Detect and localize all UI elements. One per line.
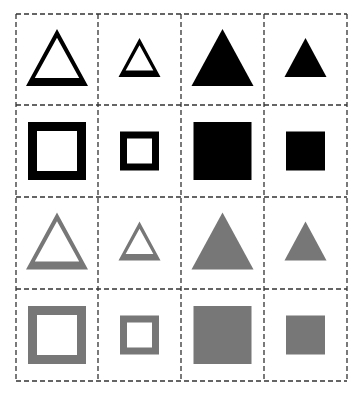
solid-square-icon [194,306,252,364]
shape-grid [0,0,362,395]
outline-triangle-icon [26,29,88,86]
cell-3-2 [194,306,252,364]
outline-square-icon [120,316,159,355]
cell-2-3 [285,222,327,261]
solid-triangle-icon [285,38,327,77]
cell-2-0 [26,213,88,270]
solid-square-icon [194,122,252,180]
cell-1-0 [28,122,86,180]
cell-3-0 [28,306,86,364]
cell-1-2 [194,122,252,180]
cell-1-3 [286,132,325,171]
cell-2-2 [192,213,254,270]
solid-square-icon [286,132,325,171]
cell-0-2 [192,29,254,86]
cell-3-1 [120,316,159,355]
cell-2-1 [119,222,161,261]
cell-3-3 [286,316,325,355]
outline-triangle-icon [26,213,88,270]
outline-square-icon [28,306,86,364]
cell-0-3 [285,38,327,77]
outline-square-icon [120,132,159,171]
solid-triangle-icon [285,222,327,261]
cell-1-1 [120,132,159,171]
solid-triangle-icon [192,29,254,86]
solid-square-icon [286,316,325,355]
outline-triangle-icon [119,222,161,261]
outline-triangle-icon [119,38,161,77]
outline-square-icon [28,122,86,180]
solid-triangle-icon [192,213,254,270]
cell-0-1 [119,38,161,77]
cell-0-0 [26,29,88,86]
